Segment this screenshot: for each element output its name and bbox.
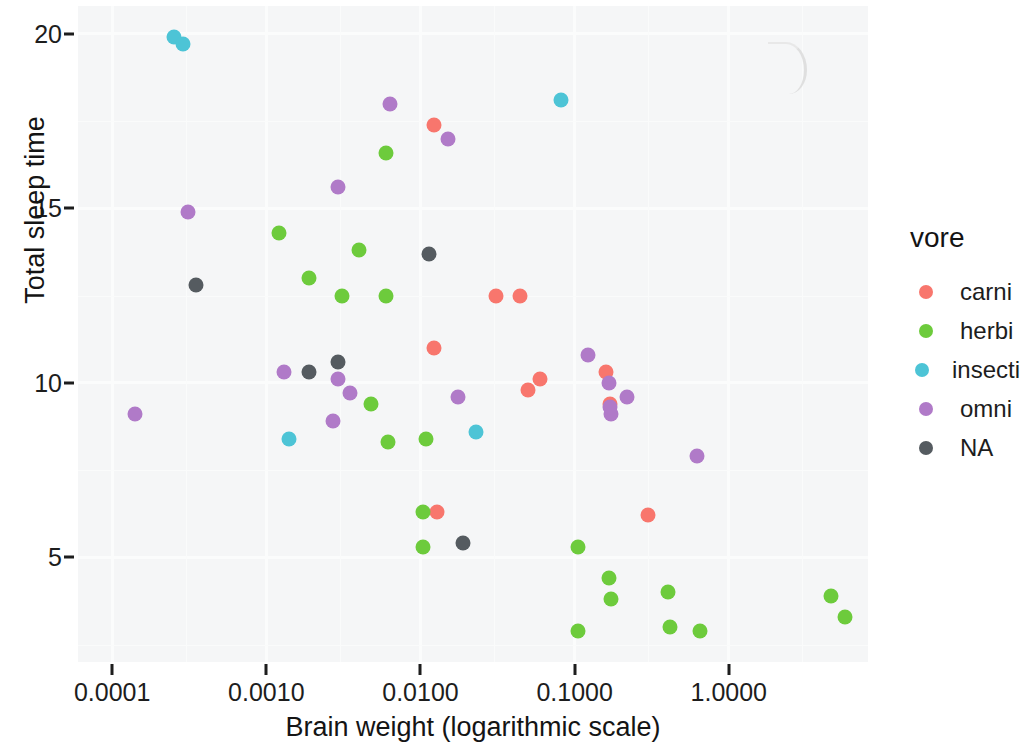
data-point-herbi [381,435,396,450]
data-point-herbi [416,539,431,554]
data-point-herbi [838,609,853,624]
x-tick-label: 1.0000 [691,678,767,707]
gridline-minor-horizontal [78,470,868,471]
gridline-major-vertical [111,6,114,662]
data-point-NA [189,278,204,293]
data-point-herbi [823,588,838,603]
x-tick-label: 0.0001 [74,678,150,707]
data-point-carni [641,508,656,523]
data-point-omni [580,347,595,362]
data-point-herbi [662,620,677,635]
gridline-minor-vertical [648,6,649,662]
data-point-herbi [693,623,708,638]
data-point-herbi [364,396,379,411]
data-point-omni [343,386,358,401]
gridline-minor-vertical [340,6,341,662]
data-point-herbi [302,271,317,286]
x-tick-mark [573,664,576,675]
legend-item-label: NA [960,434,993,462]
data-point-carni [533,372,548,387]
x-axis-title: Brain weight (logarithmic scale) [78,712,868,743]
data-point-herbi [602,571,617,586]
legend-items: carniherbiinsectiomniNA [908,272,1020,467]
gridline-major-vertical [419,6,422,662]
legend-key-swatch-icon [908,402,944,416]
legend-key-swatch-icon [908,285,944,299]
plot-panel [78,6,868,662]
legend-key-swatch-icon [908,324,944,338]
data-point-carni [521,382,536,397]
x-tick-mark [727,664,730,675]
gridline-minor-vertical [494,6,495,662]
data-point-herbi [335,288,350,303]
y-tick-mark [64,556,74,559]
legend-item-carni[interactable]: carni [908,272,1020,311]
legend-dot-icon [919,441,933,455]
x-tick-mark [419,664,422,675]
scan-artifact [768,42,807,94]
legend-item-label: insecti [952,356,1020,384]
data-point-omni [689,449,704,464]
data-point-herbi [416,504,431,519]
gridline-major-vertical [573,6,576,662]
gridline-minor-vertical [802,6,803,662]
y-tick-label: 5 [48,543,62,572]
data-point-herbi [419,431,434,446]
data-point-omni [602,375,617,390]
y-tick-mark [64,381,74,384]
data-point-insecti [553,93,568,108]
legend-item-insecti[interactable]: insecti [908,350,1020,389]
data-point-omni [382,96,397,111]
x-tick-label: 0.0010 [228,678,304,707]
data-point-herbi [570,539,585,554]
data-point-herbi [603,592,618,607]
data-point-herbi [379,145,394,160]
data-point-omni [450,389,465,404]
data-point-NA [302,365,317,380]
legend-item-na[interactable]: NA [908,428,1020,467]
gridline-major-vertical [727,6,730,662]
y-tick-mark [64,32,74,35]
data-point-omni [441,131,456,146]
data-point-carni [513,288,528,303]
y-tick-mark [64,207,74,210]
gridline-major-horizontal [78,556,868,559]
data-point-carni [427,340,442,355]
legend-item-herbi[interactable]: herbi [908,311,1020,350]
gridline-major-horizontal [78,207,868,210]
data-point-herbi [570,623,585,638]
legend-title: vore [910,222,1020,254]
data-point-omni [620,389,635,404]
data-point-omni [330,372,345,387]
legend-dot-icon [915,363,929,377]
data-point-omni [127,407,142,422]
x-tick-label: 0.0100 [382,678,458,707]
legend-item-label: carni [960,278,1012,306]
gridline-major-horizontal [78,381,868,384]
gridline-minor-horizontal [78,121,868,122]
x-tick-mark [111,664,114,675]
data-point-herbi [379,288,394,303]
gridline-minor-vertical [186,6,187,662]
gridline-major-horizontal [78,32,868,35]
x-tick-mark [265,664,268,675]
data-point-omni [180,204,195,219]
data-point-omni [325,414,340,429]
data-point-herbi [271,225,286,240]
data-point-carni [488,288,503,303]
data-point-insecti [281,431,296,446]
legend-dot-icon [919,402,933,416]
data-point-omni [603,400,618,415]
data-point-NA [456,536,471,551]
data-point-herbi [661,585,676,600]
data-point-NA [422,246,437,261]
legend-key-swatch-icon [908,441,944,455]
legend-item-label: omni [960,395,1012,423]
legend-item-omni[interactable]: omni [908,389,1020,428]
gridline-minor-horizontal [78,645,868,646]
data-point-NA [330,354,345,369]
gridline-major-vertical [265,6,268,662]
legend: vore carniherbiinsectiomniNA [908,222,1020,467]
y-axis: 2015105 Total sleep time [0,0,78,660]
